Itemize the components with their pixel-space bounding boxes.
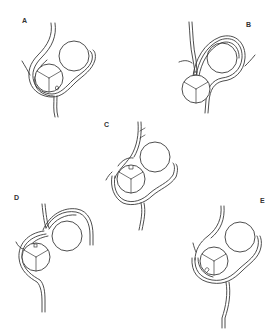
diagram-figure: A B C D E <box>0 0 280 335</box>
plain-circle-b <box>207 43 237 73</box>
panel-d-drawing <box>16 204 93 312</box>
panel-label-c: C <box>104 121 109 128</box>
plain-circle-d <box>52 221 82 251</box>
panel-label-a: A <box>22 17 27 24</box>
panel-label-b: B <box>246 21 251 28</box>
panel-b-drawing <box>179 22 255 113</box>
panel-e-drawing <box>192 206 262 328</box>
plain-circle-e <box>225 222 255 252</box>
plain-circle-c <box>140 142 170 172</box>
plain-circle-a <box>59 41 89 71</box>
panel-label-e: E <box>260 197 265 204</box>
panel-c-drawing <box>106 122 178 230</box>
panel-a-drawing <box>22 23 95 117</box>
panel-label-d: D <box>14 194 19 201</box>
